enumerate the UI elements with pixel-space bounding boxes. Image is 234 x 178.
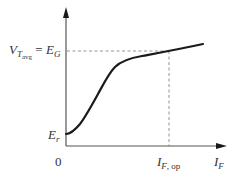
label-er-main: E (48, 127, 56, 142)
label-equals: = (32, 42, 46, 57)
label-if-op-sub-op: , op (167, 161, 181, 171)
characteristic-curve (66, 44, 203, 134)
label-origin: 0 (55, 155, 62, 168)
label-if-op-sub: F, op (161, 161, 180, 171)
label-if-op: IF, op (157, 155, 180, 168)
label-v-sub: Tavg (17, 49, 32, 59)
label-e: E (46, 42, 54, 57)
label-origin-text: 0 (55, 154, 62, 169)
label-v: V (9, 42, 17, 57)
diagram: VTavg = EG Er 0 IF, op IF (0, 0, 234, 178)
label-e-sub-g: G (54, 49, 61, 59)
diagram-canvas (0, 0, 234, 178)
x-axis-arrow-icon (216, 143, 227, 149)
label-v-subsub-avg: avg (22, 53, 32, 61)
label-if-sub: F (218, 161, 224, 171)
y-axis-arrow-icon (63, 7, 69, 18)
label-if-axis: IF (214, 155, 224, 168)
label-er: Er (48, 128, 59, 141)
label-er-sub: r (56, 134, 60, 144)
label-vt-avg-eq-eg: VTavg = EG (9, 43, 60, 56)
